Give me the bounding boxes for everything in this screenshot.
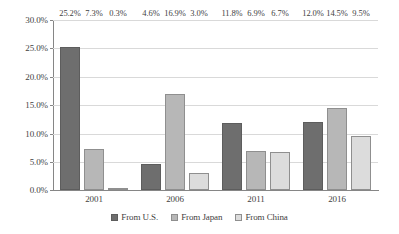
plot-area: 25.2% 7.3% 0.3% 4.6%	[53, 20, 378, 190]
y-axis-label-15: 15.0%	[25, 101, 48, 110]
bar-rect	[189, 173, 209, 190]
legend-label: From Japan	[181, 212, 222, 222]
bar-value-label: 3.0%	[190, 9, 207, 18]
bar-2011-from-us[interactable]: 11.8%	[222, 20, 242, 190]
bar-value-label: 12.0%	[302, 9, 323, 18]
bar-2006-from-us[interactable]: 4.6%	[141, 20, 161, 190]
bar-group-2016: 12.0% 14.5% 9.5%	[298, 20, 376, 190]
x-axis-line	[53, 190, 379, 191]
bar-2016-from-japan[interactable]: 14.5%	[327, 20, 347, 190]
legend-swatch-icon	[111, 214, 118, 221]
bar-group-2006: 4.6% 16.9% 3.0%	[136, 20, 214, 190]
legend-item-from-japan[interactable]: From Japan	[171, 212, 222, 222]
bar-rect	[222, 123, 242, 190]
legend-label: From China	[245, 212, 287, 222]
legend-swatch-icon	[235, 214, 242, 221]
bar-value-label: 0.3%	[109, 9, 126, 18]
bar-value-label: 6.7%	[271, 9, 288, 18]
bar-value-label: 25.2%	[59, 9, 80, 18]
y-axis-label-30: 30.0%	[25, 16, 48, 25]
bar-rect	[246, 151, 266, 190]
bar-value-label: 4.6%	[142, 9, 159, 18]
legend-item-from-us[interactable]: From U.S.	[111, 212, 158, 222]
bar-group-2011: 11.8% 6.9% 6.7%	[217, 20, 295, 190]
bar-2001-from-us[interactable]: 25.2%	[60, 20, 80, 190]
bar-rect	[303, 122, 323, 190]
bar-rect	[108, 188, 128, 191]
legend-item-from-china[interactable]: From China	[235, 212, 287, 222]
bar-value-label: 16.9%	[164, 9, 185, 18]
bar-value-label: 7.3%	[85, 9, 102, 18]
legend-swatch-icon	[171, 214, 178, 221]
bar-value-label: 6.9%	[247, 9, 264, 18]
bar-group-2001: 25.2% 7.3% 0.3%	[55, 20, 133, 190]
y-axis-label-0: 0.0%	[30, 186, 48, 195]
x-axis-label-2011: 2011	[217, 194, 295, 204]
bar-rect	[351, 136, 371, 190]
x-axis-label-2016: 2016	[298, 194, 376, 204]
legend: From U.S. From Japan From China	[0, 212, 399, 222]
bar-rect	[141, 164, 161, 190]
bar-rect	[60, 47, 80, 190]
y-axis-labels: 30.0% 25.0% 20.0% 15.0% 10.0% 5.0% 0.0%	[0, 0, 48, 234]
bar-2006-from-china[interactable]: 3.0%	[189, 20, 209, 190]
bar-rect	[165, 94, 185, 190]
bar-2016-from-us[interactable]: 12.0%	[303, 20, 323, 190]
y-axis-label-10: 10.0%	[25, 130, 48, 139]
bar-value-label: 9.5%	[352, 9, 369, 18]
bar-2011-from-japan[interactable]: 6.9%	[246, 20, 266, 190]
bar-2001-from-china[interactable]: 0.3%	[108, 20, 128, 190]
legend-label: From U.S.	[121, 212, 158, 222]
bar-2006-from-japan[interactable]: 16.9%	[165, 20, 185, 190]
y-axis-label-5: 5.0%	[30, 158, 48, 167]
bar-rect	[84, 149, 104, 190]
x-axis-label-2006: 2006	[136, 194, 214, 204]
bar-2001-from-japan[interactable]: 7.3%	[84, 20, 104, 190]
bar-rect	[270, 152, 290, 190]
bar-2016-from-china[interactable]: 9.5%	[351, 20, 371, 190]
x-axis-label-2001: 2001	[55, 194, 133, 204]
bar-2011-from-china[interactable]: 6.7%	[270, 20, 290, 190]
y-axis-label-25: 25.0%	[25, 44, 48, 53]
bar-value-label: 11.8%	[221, 9, 242, 18]
bar-rect	[327, 108, 347, 190]
bar-value-label: 14.5%	[326, 9, 347, 18]
y-axis-label-20: 20.0%	[25, 73, 48, 82]
bar-chart: 30.0% 25.0% 20.0% 15.0% 10.0% 5.0% 0.0% …	[0, 0, 399, 234]
